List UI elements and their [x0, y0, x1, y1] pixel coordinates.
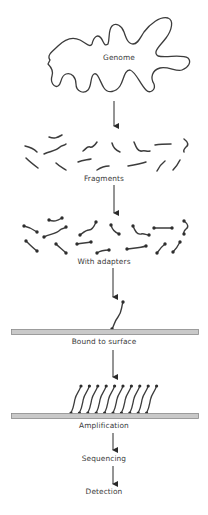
adapted-fragments-group	[22, 216, 187, 254]
amplified-cluster	[69, 384, 158, 414]
adapters-label: With adapters	[0, 257, 208, 266]
surface-bar-bound	[12, 330, 199, 335]
ngs-workflow-diagram: Genome Fragments With adapters Bound to …	[0, 0, 208, 515]
sequencing-label: Sequencing	[0, 454, 208, 463]
fragments-group	[25, 135, 188, 171]
bound-to-surface-label: Bound to surface	[0, 337, 208, 346]
fragments-label: Fragments	[0, 174, 208, 183]
detection-label: Detection	[0, 487, 208, 496]
amplification-label: Amplification	[0, 421, 208, 430]
bound-strand	[110, 300, 124, 330]
surface-bar-amplification	[12, 414, 199, 419]
genome-label: Genome	[15, 53, 208, 62]
